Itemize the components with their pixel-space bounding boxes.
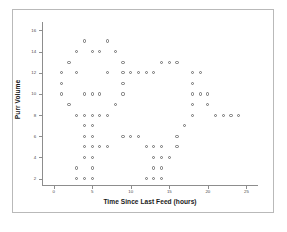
- scatter-chart: 246810121416 0510152025 Time Since Last …: [0, 0, 287, 232]
- figure-frame: [12, 9, 274, 213]
